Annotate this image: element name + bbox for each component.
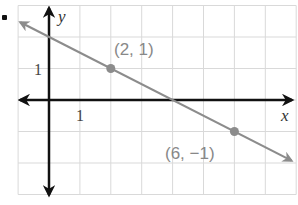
x-tick-label: 1 [76, 107, 84, 124]
x-axis-label: x [280, 106, 289, 125]
point-2-1 [106, 64, 115, 73]
plotted-line [20, 22, 291, 160]
y-tick-label: 1 [34, 61, 42, 78]
point-label-2-1: (2, 1) [114, 40, 154, 59]
coordinate-graph: y x 1 1 (2, 1) (6, −1) [0, 0, 298, 205]
point-6-neg1 [230, 127, 239, 136]
y-axis-label: y [56, 7, 66, 26]
point-label-6-neg1: (6, −1) [165, 144, 215, 163]
